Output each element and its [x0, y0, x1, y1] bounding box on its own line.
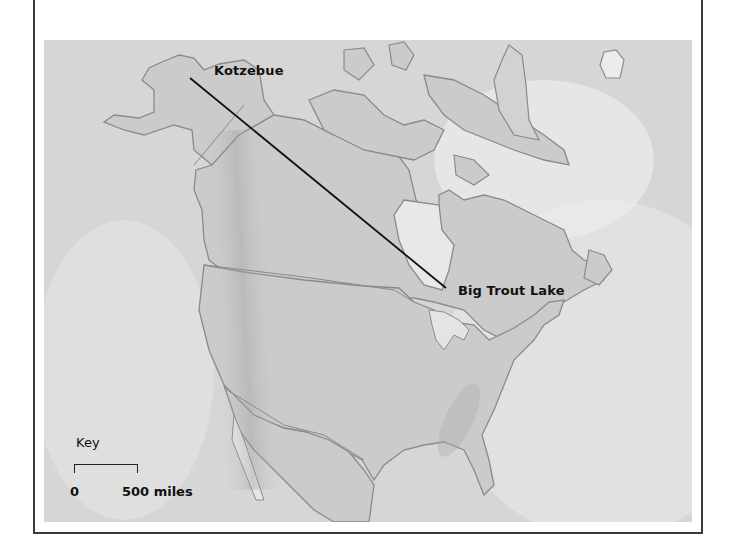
north-america-map	[44, 40, 692, 522]
scale-start-label: 0	[70, 484, 79, 499]
scale-end-label: 500 miles	[122, 484, 193, 499]
map-graphic	[44, 40, 692, 522]
key-title: Key	[76, 435, 100, 450]
place-label-big-trout-lake: Big Trout Lake	[458, 283, 565, 298]
scale-bar	[74, 464, 138, 473]
place-label-kotzebue: Kotzebue	[214, 63, 284, 78]
